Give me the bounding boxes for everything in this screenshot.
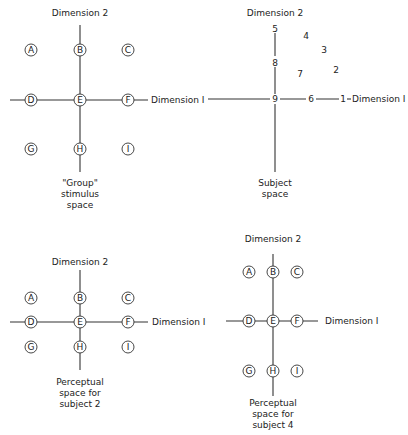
caption-line-1: "Group" bbox=[62, 178, 98, 188]
stimulus-point-h: H bbox=[267, 365, 279, 377]
subject-point-3: 3 bbox=[321, 45, 327, 55]
stimulus-point-f: F bbox=[122, 94, 134, 106]
stimulus-point-a: A bbox=[25, 44, 37, 56]
stimulus-point-e: E bbox=[74, 94, 86, 106]
subject-point-9: 9 bbox=[272, 94, 278, 104]
svg-text:G: G bbox=[246, 366, 253, 376]
caption-line-2: space for bbox=[59, 388, 101, 398]
stimulus-point-f: F bbox=[291, 315, 303, 327]
subject-point-6: 6 bbox=[308, 94, 314, 104]
stimulus-point-g: G bbox=[25, 143, 37, 155]
caption-line-1: Subject bbox=[258, 178, 292, 188]
svg-text:H: H bbox=[270, 366, 277, 376]
stimulus-point-d: D bbox=[243, 315, 255, 327]
dimension-2-label: Dimension 2 bbox=[247, 8, 303, 18]
svg-text:I: I bbox=[127, 144, 130, 154]
svg-text:B: B bbox=[77, 293, 83, 303]
svg-text:F: F bbox=[125, 95, 130, 105]
stimulus-point-h: H bbox=[74, 143, 86, 155]
caption-line-3: subject 2 bbox=[59, 399, 100, 409]
svg-text:C: C bbox=[125, 45, 131, 55]
stimulus-point-c: C bbox=[122, 292, 134, 304]
dimension-1-label: Dimension I bbox=[152, 317, 205, 327]
dimension-1-label: Dimension I bbox=[352, 94, 405, 104]
dimension-2-label: Dimension 2 bbox=[245, 234, 301, 244]
stimulus-point-g: G bbox=[243, 365, 255, 377]
svg-text:A: A bbox=[28, 293, 35, 303]
stimulus-point-a: A bbox=[25, 292, 37, 304]
svg-text:F: F bbox=[294, 316, 299, 326]
caption-line-2: space bbox=[262, 189, 289, 199]
svg-text:H: H bbox=[77, 342, 84, 352]
stimulus-point-g: G bbox=[25, 341, 37, 353]
svg-text:B: B bbox=[270, 267, 276, 277]
stimulus-point-b: B bbox=[74, 292, 86, 304]
subject-point-4: 4 bbox=[303, 31, 309, 41]
svg-text:E: E bbox=[77, 317, 83, 327]
subject-point-5: 5 bbox=[272, 24, 278, 34]
caption-line-3: space bbox=[67, 200, 94, 210]
panel-group-stimulus-space: Dimension 2 Dimension I A B C D E F G H … bbox=[10, 8, 204, 210]
svg-text:E: E bbox=[77, 95, 83, 105]
panel-subject-space: Dimension 2 Dimension I 5 4 3 8 7 2 9 6 … bbox=[208, 8, 405, 199]
svg-text:E: E bbox=[270, 316, 276, 326]
stimulus-point-c: C bbox=[122, 44, 134, 56]
caption-line-2: stimulus bbox=[61, 189, 99, 199]
svg-text:G: G bbox=[28, 342, 35, 352]
subject-point-8: 8 bbox=[272, 58, 278, 68]
dimension-1-label: Dimension I bbox=[151, 95, 204, 105]
stimulus-point-i: I bbox=[122, 341, 134, 353]
stimulus-point-h: H bbox=[74, 341, 86, 353]
stimulus-point-b: B bbox=[267, 266, 279, 278]
svg-text:C: C bbox=[294, 267, 300, 277]
svg-text:I: I bbox=[127, 342, 130, 352]
svg-text:D: D bbox=[246, 316, 253, 326]
stimulus-point-f: F bbox=[122, 316, 134, 328]
stimulus-point-b: B bbox=[74, 44, 86, 56]
panel-perceptual-space-subject-2: Dimension 2 Dimension I A B C D E F G H … bbox=[10, 257, 205, 409]
dimension-2-label: Dimension 2 bbox=[52, 257, 108, 267]
svg-text:I: I bbox=[296, 366, 299, 376]
dimension-1-label: Dimension I bbox=[325, 316, 378, 326]
svg-text:D: D bbox=[28, 95, 35, 105]
dimension-2-label: Dimension 2 bbox=[52, 8, 108, 18]
caption-line-3: subject 4 bbox=[252, 420, 293, 430]
stimulus-point-e: E bbox=[267, 315, 279, 327]
stimulus-point-e: E bbox=[74, 316, 86, 328]
stimulus-point-d: D bbox=[25, 316, 37, 328]
stimulus-point-i: I bbox=[122, 143, 134, 155]
subject-point-1: 1 bbox=[340, 94, 346, 104]
stimulus-point-d: D bbox=[25, 94, 37, 106]
svg-text:F: F bbox=[125, 317, 130, 327]
svg-text:B: B bbox=[77, 45, 83, 55]
svg-text:C: C bbox=[125, 293, 131, 303]
svg-text:H: H bbox=[77, 144, 84, 154]
svg-text:G: G bbox=[28, 144, 35, 154]
subject-point-2: 2 bbox=[333, 65, 339, 75]
stimulus-point-a: A bbox=[243, 266, 255, 278]
caption-line-2: space for bbox=[252, 409, 294, 419]
svg-text:A: A bbox=[246, 267, 253, 277]
svg-text:D: D bbox=[28, 317, 35, 327]
stimulus-point-c: C bbox=[291, 266, 303, 278]
caption-line-1: Perceptual bbox=[56, 377, 104, 387]
caption-line-1: Perceptual bbox=[249, 398, 297, 408]
stimulus-point-i: I bbox=[291, 365, 303, 377]
panel-perceptual-space-subject-4: Dimension 2 Dimension I A B C D E F G H … bbox=[226, 234, 378, 430]
subject-point-7: 7 bbox=[297, 69, 303, 79]
svg-text:A: A bbox=[28, 45, 35, 55]
